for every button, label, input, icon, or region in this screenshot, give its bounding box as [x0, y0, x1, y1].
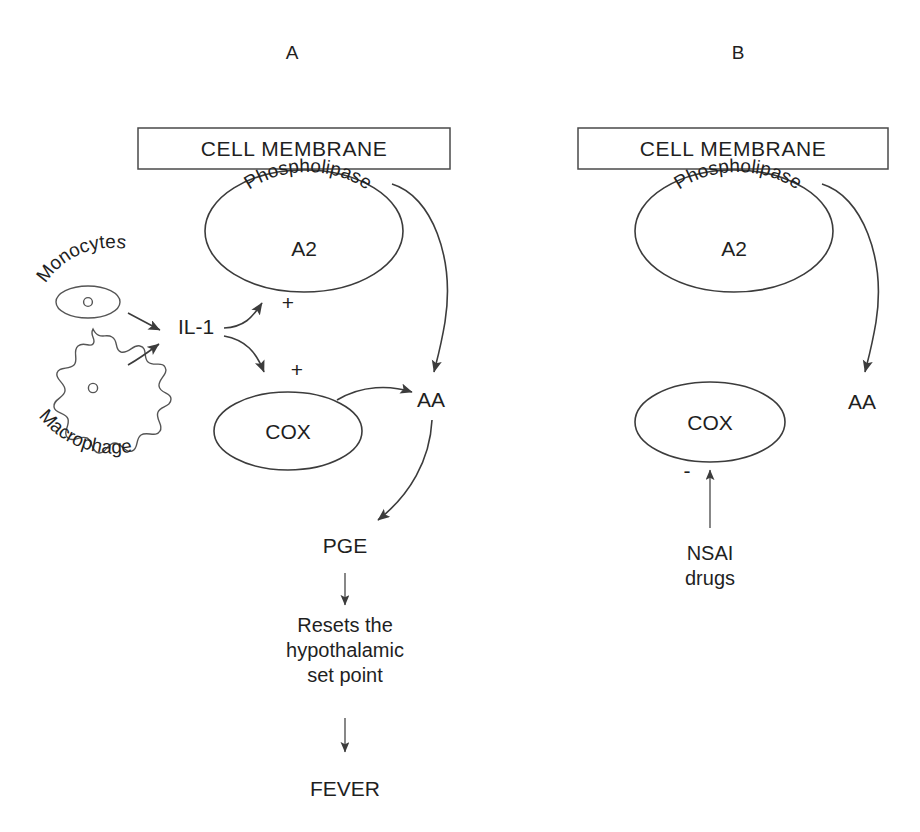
panel-b: B CELL MEMBRANE Phospholipase A2 AA COX … — [578, 42, 888, 589]
resets-line-3: set point — [307, 664, 383, 686]
phospholipase-a2-ellipse-a — [205, 170, 403, 292]
macrophage-label: Macrophage — [35, 405, 133, 458]
nsai-line-1: NSAI — [687, 542, 734, 564]
phospholipase-a2-ellipse-b — [635, 170, 833, 292]
arrow-cox-to-aa-a — [337, 387, 412, 400]
arrow-il1-to-cox — [224, 336, 264, 372]
panel-a: A CELL MEMBRANE Phospholipase A2 Monocyt… — [32, 42, 450, 800]
plus-sign-phospholipase: + — [282, 291, 294, 314]
phospholipase-a2-sublabel-b: A2 — [721, 237, 747, 260]
cox-label-b: COX — [687, 411, 733, 434]
cox-label-a: COX — [265, 420, 311, 443]
resets-line-2: hypothalamic — [286, 639, 404, 661]
monocyte-cell-body — [56, 286, 120, 318]
plus-sign-cox: + — [291, 358, 303, 381]
arrow-phospholipase-to-aa-b — [822, 184, 878, 372]
arrow-monocytes-to-il1 — [128, 313, 160, 330]
arrow-il1-to-phospholipase — [224, 303, 262, 328]
minus-sign-cox: - — [684, 459, 691, 482]
panel-a-label: A — [286, 42, 299, 63]
macrophage-nucleus — [88, 383, 97, 392]
phospholipase-a2-sublabel-a: A2 — [291, 237, 317, 260]
aa-label-b: AA — [848, 390, 876, 413]
resets-line-1: Resets the — [297, 614, 393, 636]
nsai-line-2: drugs — [685, 567, 735, 589]
il1-label: IL-1 — [178, 315, 214, 338]
monocytes-label: Monocytes — [32, 231, 127, 286]
arrow-phospholipase-to-aa-a — [392, 184, 447, 372]
pge-label: PGE — [323, 534, 367, 557]
panel-b-label: B — [732, 42, 745, 63]
fever-label: FEVER — [310, 777, 380, 800]
pathway-diagram-svg: A CELL MEMBRANE Phospholipase A2 Monocyt… — [0, 0, 920, 832]
arrow-aa-to-pge — [378, 420, 432, 520]
monocyte-nucleus — [84, 298, 93, 307]
figure-canvas: A CELL MEMBRANE Phospholipase A2 Monocyt… — [0, 0, 920, 832]
aa-label-a: AA — [417, 388, 445, 411]
